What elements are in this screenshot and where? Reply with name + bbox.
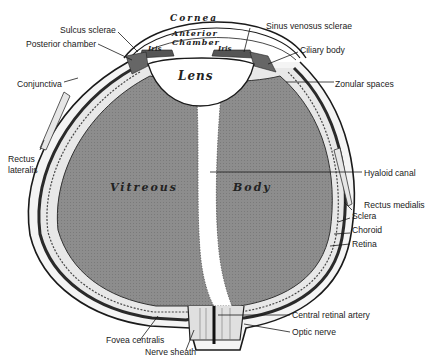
callout-central-retinal-artery: Central retinal artery — [292, 310, 370, 320]
iris-right-label: Iris — [218, 44, 232, 53]
eye-illustration — [0, 0, 433, 362]
callout-fovea-centralis: Fovea centralis — [106, 335, 164, 345]
callout-posterior-chamber: Posterior chamber — [26, 39, 96, 49]
callout-sclera: Sclera — [352, 211, 376, 221]
callout-choroid: Choroid — [352, 225, 382, 235]
cornea-label: Cornea — [170, 13, 218, 23]
iris-left-label: Iris — [148, 44, 162, 53]
callout-rectus-lateralis-line1: Rectus — [8, 154, 35, 164]
body-label: Body — [233, 181, 272, 194]
callout-rectus-medialis: Rectus medialis — [364, 200, 425, 210]
callout-sulcus-sclerae: Sulcus sclerae — [60, 25, 116, 35]
callout-ciliary-body: Ciliary body — [300, 45, 345, 55]
callout-zonular-spaces: Zonular spaces — [335, 79, 394, 89]
eye-anatomy-diagram: Cornea Anterior Chamber Iris Iris Lens V… — [0, 0, 433, 362]
callout-nerve-sheath: Nerve sheath — [145, 347, 196, 357]
callout-conjunctiva: Conjunctiva — [17, 79, 62, 89]
callout-rectus-lateralis-line2: lateralis — [8, 165, 38, 175]
optic-nerve-shape — [188, 306, 244, 340]
vitreous-label: Vitreous — [110, 181, 178, 194]
callout-sinus-venosus-sclerae: Sinus venosus sclerae — [266, 21, 352, 31]
lens-label: Lens — [178, 69, 214, 83]
callout-optic-nerve: Optic nerve — [292, 327, 336, 337]
callout-hyaloid-canal: Hyaloid canal — [364, 168, 416, 178]
callout-retina: Retina — [352, 239, 377, 249]
chamber-label: Chamber — [172, 37, 220, 47]
